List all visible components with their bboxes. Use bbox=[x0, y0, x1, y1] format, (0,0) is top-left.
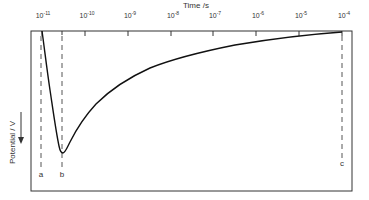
marker-label-c: c bbox=[340, 159, 344, 168]
x-tick-label: 10-10 bbox=[79, 10, 94, 19]
x-axis-ticks bbox=[42, 31, 342, 36]
marker-lines bbox=[41, 36, 342, 168]
x-tick-label: 10-6 bbox=[252, 10, 264, 19]
x-tick-label: 10-4 bbox=[338, 10, 350, 19]
x-tick-label: 10-8 bbox=[167, 10, 179, 19]
marker-label-a: a bbox=[39, 170, 43, 179]
y-axis-title: Potential / V bbox=[8, 84, 20, 164]
marker-label-b: b bbox=[60, 170, 64, 179]
chart-canvas bbox=[0, 0, 369, 200]
x-tick-label: 10-5 bbox=[295, 10, 307, 19]
x-tick-label: 10-9 bbox=[124, 10, 136, 19]
x-tick-label: 10-7 bbox=[209, 10, 221, 19]
potential-curve bbox=[42, 31, 342, 153]
x-tick-label: 10-11 bbox=[36, 10, 51, 19]
x-axis-title: Time /s bbox=[183, 1, 209, 10]
